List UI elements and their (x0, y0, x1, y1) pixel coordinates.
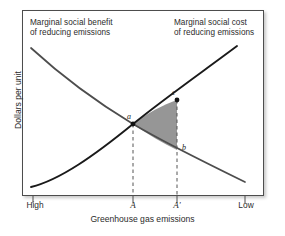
y-axis-title: Dollars per unit (13, 25, 23, 175)
x-tick-label-high: High (18, 200, 52, 210)
point-label-b: b (182, 143, 186, 152)
x-axis-title: Greenhouse gas emissions (0, 214, 285, 224)
x-tick-label-a: A (120, 200, 146, 210)
chart-screenshot: Marginal social benefit of reducing emis… (0, 0, 285, 236)
x-tick-label-low: Low (229, 200, 263, 210)
msc-curve-label: Marginal social cost of reducing emissio… (174, 18, 254, 39)
point-label-a: a (127, 112, 131, 121)
point-label-c: c (172, 88, 176, 97)
x-tick-label-a-prime: A' (164, 200, 190, 210)
msc-curve (31, 46, 237, 187)
data-point-c (175, 98, 180, 103)
msb-curve-label: Marginal social benefit of reducing emis… (30, 18, 113, 39)
msb-curve (31, 48, 245, 182)
data-point-a (131, 122, 136, 127)
